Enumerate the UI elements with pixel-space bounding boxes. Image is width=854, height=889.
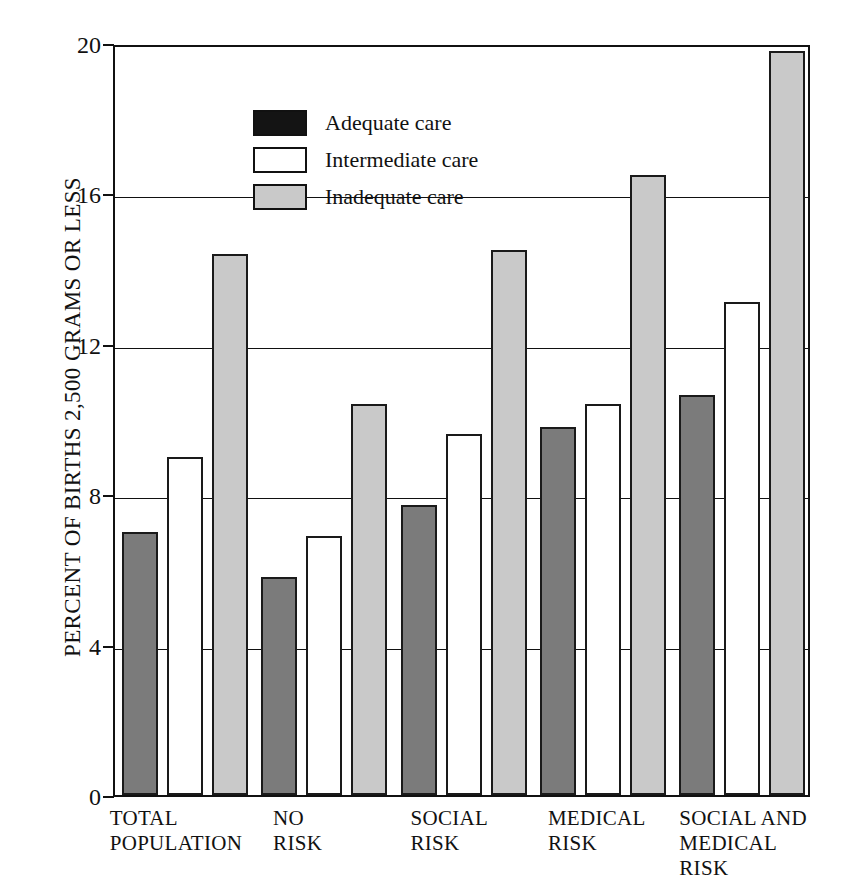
- bar-inadequate-care-group-5: [769, 51, 805, 795]
- bar-intermediate-care-group-4: [585, 404, 621, 795]
- x-category-label-1: TOTAL POPULATION: [110, 806, 243, 856]
- bar-intermediate-care-group-5: [724, 302, 760, 795]
- bar-adequate-care-group-3: [401, 505, 437, 795]
- bar-intermediate-care-group-3: [446, 434, 482, 795]
- y-tick-label-12: 12: [55, 334, 101, 358]
- x-category-label-4: MEDICAL RISK: [548, 806, 646, 856]
- y-tick-label-8: 8: [55, 484, 101, 508]
- bar-adequate-care-group-2: [261, 577, 297, 795]
- y-axis-title: PERCENT OF BIRTHS 2,500 GRAMS OR LESS: [60, 37, 86, 797]
- bar-intermediate-care-group-1: [167, 457, 203, 795]
- bar-adequate-care-group-1: [122, 532, 158, 795]
- legend-swatch-intermediate-care: [253, 147, 307, 173]
- legend-label-inadequate-care: Inadequate care: [325, 184, 464, 210]
- x-category-label-2: NO RISK: [273, 806, 322, 856]
- legend-item-intermediate-care: Intermediate care: [253, 141, 478, 178]
- legend-label-intermediate-care: Intermediate care: [325, 147, 478, 173]
- legend-item-inadequate-care: Inadequate care: [253, 178, 478, 215]
- bar-intermediate-care-group-2: [306, 536, 342, 795]
- bar-adequate-care-group-4: [540, 427, 576, 795]
- legend: Adequate care Intermediate care Inadequa…: [253, 104, 478, 215]
- y-tick-label-20: 20: [55, 33, 101, 57]
- bar-adequate-care-group-5: [679, 395, 715, 795]
- x-category-label-3: SOCIAL RISK: [411, 806, 489, 856]
- legend-swatch-adequate-care: [253, 110, 307, 136]
- plot-area: Adequate care Intermediate care Inadequa…: [113, 45, 810, 797]
- y-tick-label-16: 16: [55, 183, 101, 207]
- bar-inadequate-care-group-2: [351, 404, 387, 795]
- legend-item-adequate-care: Adequate care: [253, 104, 478, 141]
- bar-chart-figure: PERCENT OF BIRTHS 2,500 GRAMS OR LESS 04…: [0, 0, 854, 889]
- y-tick-label-4: 4: [55, 635, 101, 659]
- y-tick-label-0: 0: [55, 785, 101, 809]
- legend-label-adequate-care: Adequate care: [325, 110, 451, 136]
- legend-swatch-inadequate-care: [253, 184, 307, 210]
- bar-inadequate-care-group-1: [212, 254, 248, 795]
- bar-inadequate-care-group-3: [491, 250, 527, 795]
- bar-inadequate-care-group-4: [630, 175, 666, 795]
- x-category-label-5: SOCIAL AND MEDICAL RISK: [679, 806, 807, 880]
